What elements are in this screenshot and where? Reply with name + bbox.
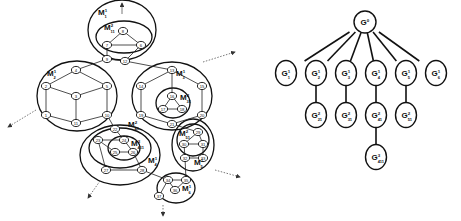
svg-text:12: 12 [123,59,128,64]
graph-edge [76,70,107,86]
svg-text:27: 27 [104,168,109,173]
svg-text:23: 23 [96,138,101,143]
svg-text:11: 11 [74,121,79,126]
tree-node-g241: G241 [366,103,387,128]
graph-node-12: 12 [120,57,129,64]
hierarchical-graph-partition: 8769124253110111314151617181920212223242… [8,0,240,216]
region-label-m1: M11 [98,8,108,19]
graph-node-14: 14 [136,82,145,89]
tree-node-g13: G13 [336,61,357,86]
arrow-icon [88,181,100,198]
tree-node-g0: G0 [354,11,376,33]
region-label-m11: M211 [104,23,116,34]
tree-node-g11: G11 [276,61,297,86]
graph-node-1: 1 [41,111,50,118]
graph-node-5: 5 [102,82,111,89]
graph-node-21: 21 [167,120,176,127]
svg-text:13: 13 [170,68,175,73]
graph-node-26: 26 [128,148,137,155]
region-label-m2: M12 [47,69,57,80]
graph-node-25: 25 [110,148,119,155]
tree-node-g3411: G3411 [366,145,387,170]
tree-node-g12: G12 [306,61,327,86]
graph-node-28: 28 [137,166,146,173]
graph-node-27: 27 [101,166,110,173]
graph-node-17: 17 [158,105,167,112]
arrow-icon [215,170,240,177]
svg-text:31: 31 [201,142,206,147]
region-m4 [80,125,160,185]
svg-text:21: 21 [170,122,175,127]
graph-node-20: 20 [197,111,206,118]
tree-edges [305,32,420,145]
arrow-icon [8,110,36,127]
tree-node-g15: G15 [396,61,417,86]
svg-text:14: 14 [139,84,144,89]
diagram-canvas: 8769124253110111314151617181920212223242… [0,0,461,221]
svg-text:35: 35 [184,178,189,183]
graph-node-36: 36 [170,186,179,193]
svg-text:19: 19 [139,113,144,118]
svg-text:36: 36 [173,188,178,193]
graph-node-3: 3 [71,92,80,99]
svg-text:17: 17 [161,107,166,112]
graph-node-15: 15 [197,82,206,89]
svg-text:18: 18 [180,107,185,112]
svg-text:25: 25 [113,150,118,155]
tree-node-g16: G16 [426,61,447,86]
graph-node-32: 32 [180,154,189,161]
tree-edge [305,32,350,61]
graph-node-8: 8 [118,27,127,34]
graph-node-35: 35 [181,176,190,183]
graph-node-37: 37 [154,192,163,199]
svg-text:24: 24 [122,138,127,143]
tree-edge [367,32,373,61]
region-label-m6: M16 [182,184,192,195]
tree-node-g221: G221 [306,103,327,128]
svg-text:29: 29 [196,130,201,135]
graph-node-19: 19 [136,111,145,118]
graph-node-4: 4 [71,66,80,73]
svg-text:20: 20 [200,113,205,118]
region-label-m31: M231 [180,93,192,104]
region-label-m51: M251 [179,129,191,140]
tree-node-g14: G14 [366,61,387,86]
tree-node-g251: G251 [396,103,417,128]
region-label-m5: M15 [194,158,204,169]
svg-text:32: 32 [183,156,188,161]
svg-text:34: 34 [166,178,171,183]
svg-text:37: 37 [157,194,162,199]
graph-node-23: 23 [93,136,102,143]
region-label-m3: M13 [176,69,186,80]
graph-node-9: 9 [102,55,111,62]
graph-node-24: 24 [119,136,128,143]
graph-node-7: 7 [102,41,111,48]
svg-text:15: 15 [200,84,205,89]
hierarchy-tree: G0G11G12G13G14G15G16G221G231G241G251G341… [276,11,447,170]
graph-node-29: 29 [193,128,202,135]
graph-node-34: 34 [163,176,172,183]
graph-node-30: 30 [179,140,188,147]
graph-node-11: 11 [71,119,80,126]
svg-text:26: 26 [131,150,136,155]
svg-text:10: 10 [105,113,110,118]
arrow-icon [203,52,235,62]
graph-node-18: 18 [177,105,186,112]
graph-node-31: 31 [198,140,207,147]
svg-text:22: 22 [113,127,118,132]
graph-edges [46,31,203,196]
svg-text:30: 30 [182,142,187,147]
region-label-m4: M14 [148,156,158,167]
svg-text:28: 28 [140,168,145,173]
graph-node-10: 10 [102,111,111,118]
svg-text:16: 16 [170,94,175,99]
graph-node-16: 16 [167,92,176,99]
graph-edge [141,70,172,86]
tree-node-g231: G231 [336,103,357,128]
graph-node-2: 2 [41,82,50,89]
graph-node-6: 6 [136,41,145,48]
graph-node-22: 22 [110,125,119,132]
